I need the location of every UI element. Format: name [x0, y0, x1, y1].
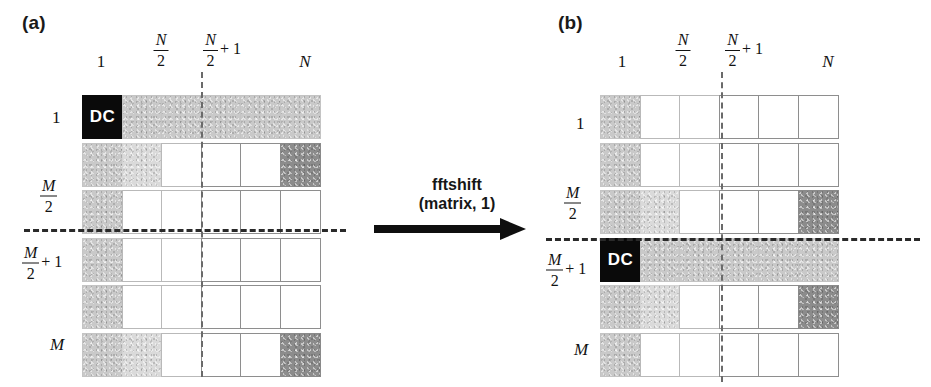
row-header-half-num-b: M [564, 185, 581, 201]
col-header-half-plus-a: N 2 + 1 [203, 32, 241, 69]
row-header-half-a: M 2 [40, 178, 57, 215]
matrix-cell-a-r6c1 [82, 333, 123, 377]
col-header-half-den-a: 2 [157, 53, 165, 69]
panel-b: (b) 1 N 2 N 2 + 1 N 1 M 2 M 2 + 1 M [540, 0, 931, 387]
matrix-cell-a-r1c5 [240, 95, 281, 139]
col-header-half-plus-den-a: 2 [206, 53, 214, 69]
matrix-cell-a-r3c6 [280, 190, 321, 234]
matrix-cell-a-r2c2 [122, 143, 163, 187]
row-header-first-a: 1 [52, 108, 61, 128]
row-header-half-b: M 2 [564, 185, 581, 222]
matrix-cell-b-r2c6 [798, 143, 839, 187]
matrix-cell-b-r6c1 [600, 333, 641, 377]
matrix-cell-a-r5c6 [280, 285, 321, 329]
arrow-head [500, 218, 526, 240]
matrix-cell-a-r3c3 [161, 190, 202, 234]
row-header-half-den-b: 2 [569, 206, 577, 222]
matrix-cell-b-r3c2 [640, 190, 681, 234]
matrix-cell-b-r5c1 [600, 285, 641, 329]
matrix-cell-b-r3c4 [719, 190, 760, 234]
matrix-cell-a-r5c3 [161, 285, 202, 329]
matrix-cell-b-r5c3 [679, 285, 720, 329]
matrix-cell-a-r3c1 [82, 190, 123, 234]
fftshift-caption-line2: (matrix, 1) [374, 195, 540, 214]
row-header-half-num-a: M [40, 178, 57, 194]
matrix-cell-b-r1c1 [600, 95, 641, 139]
matrix-cell-b-r1c3 [679, 95, 720, 139]
matrix-cell-b-r5c5 [758, 285, 799, 329]
matrix-cell-b-r2c1 [600, 143, 641, 187]
matrix-cell-a-r6c6 [280, 333, 321, 377]
col-header-first-b: 1 [618, 52, 627, 72]
panel-a-label: (a) [22, 12, 46, 34]
matrix-cell-a-r3c5 [240, 190, 281, 234]
col-header-half-plus-b: N 2 + 1 [725, 32, 763, 69]
matrix-cell-a-r3c4 [201, 190, 242, 234]
dc-label-a: DC [83, 96, 122, 138]
row-header-half-plus-num-b: M [546, 252, 563, 268]
row-header-half-plus-num-a: M [22, 245, 39, 261]
matrix-cell-b-r4c1: DC [600, 238, 641, 282]
col-header-half-a: N 2 [154, 32, 169, 69]
matrix-cell-b-r6c2 [640, 333, 681, 377]
row-header-half-plus-a: M 2 + 1 [22, 245, 62, 282]
matrix-cell-a-r1c3 [161, 95, 202, 139]
matrix-cell-b-r6c6 [798, 333, 839, 377]
matrix-cell-a-r4c3 [161, 238, 202, 282]
row-header-last-b: M [574, 340, 588, 360]
matrix-cell-a-r5c1 [82, 285, 123, 329]
col-header-half-num-b: N [676, 32, 691, 48]
matrix-cell-b-r4c6 [798, 238, 839, 282]
matrix-cell-a-r4c6 [280, 238, 321, 282]
matrix-cell-a-r5c2 [122, 285, 163, 329]
matrix-cell-b-r2c3 [679, 143, 720, 187]
col-header-half-den-b: 2 [679, 53, 687, 69]
row-header-last-a: M [50, 335, 64, 355]
matrix-cell-b-r4c4 [719, 238, 760, 282]
col-header-half-plus-num-a: N [203, 32, 218, 48]
col-header-last-a: N [299, 52, 310, 72]
matrix-cell-b-r2c2 [640, 143, 681, 187]
matrix-cell-b-r1c6 [798, 95, 839, 139]
vertical-split-line-a [201, 72, 203, 377]
matrix-cell-b-r5c4 [719, 285, 760, 329]
row-header-half-den-a: 2 [45, 199, 53, 215]
fftshift-caption-line1: fftshift [374, 176, 540, 195]
matrix-grid-b: DC [600, 95, 839, 377]
matrix-cell-b-r6c4 [719, 333, 760, 377]
matrix-cell-a-r6c4 [201, 333, 242, 377]
arrow-shape [374, 218, 540, 240]
col-header-half-plus-suffix-a: + 1 [220, 40, 241, 57]
row-header-half-plus-suffix-a: + 1 [41, 253, 62, 270]
matrix-cell-b-r3c3 [679, 190, 720, 234]
dc-label-b: DC [601, 239, 640, 281]
matrix-cell-b-r6c5 [758, 333, 799, 377]
horizontal-split-line-b [546, 238, 920, 241]
matrix-cell-a-r6c2 [122, 333, 163, 377]
matrix-cell-a-r5c4 [201, 285, 242, 329]
vertical-split-line-b [721, 72, 723, 382]
matrix-cell-a-r1c4 [201, 95, 242, 139]
row-header-half-plus-den-b: 2 [551, 273, 559, 289]
matrix-cell-b-r6c3 [679, 333, 720, 377]
matrix-cell-b-r1c4 [719, 95, 760, 139]
col-header-half-b: N 2 [676, 32, 691, 69]
col-header-half-plus-den-b: 2 [728, 53, 736, 69]
col-header-half-plus-suffix-b: + 1 [742, 40, 763, 57]
matrix-cell-a-r4c1 [82, 238, 123, 282]
matrix-cell-a-r1c6 [280, 95, 321, 139]
arrow-shaft [374, 225, 506, 233]
matrix-cell-a-r4c2 [122, 238, 163, 282]
fftshift-caption: fftshift (matrix, 1) [374, 176, 540, 214]
horizontal-split-line-a [24, 229, 346, 232]
matrix-cell-a-r2c1 [82, 143, 123, 187]
matrix-cell-a-r6c5 [240, 333, 281, 377]
panel-b-label: (b) [558, 12, 583, 34]
matrix-cell-b-r3c1 [600, 190, 641, 234]
row-header-half-plus-den-a: 2 [27, 266, 35, 282]
col-header-half-plus-num-b: N [725, 32, 740, 48]
matrix-cell-a-r6c3 [161, 333, 202, 377]
matrix-cell-a-r5c5 [240, 285, 281, 329]
matrix-cell-a-r1c2 [122, 95, 163, 139]
fftshift-arrow-group: fftshift (matrix, 1) [374, 176, 540, 240]
